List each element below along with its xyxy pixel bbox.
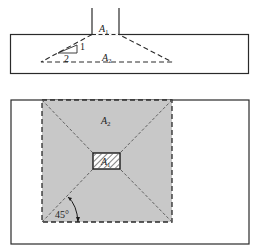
slope-indicator [58,45,77,53]
slope-rise-label: 1 [80,41,85,52]
slope-run-label: 2 [64,53,69,64]
footing-diagram: 1 2 A1 A2 A1 A2 45° [0,0,261,246]
plan-view: A1 A2 45° [11,100,249,244]
elevation-view: 1 2 A1 A2 [11,8,249,74]
elevation-a2-label: A2 [101,52,112,65]
angle-label: 45° [55,209,69,220]
